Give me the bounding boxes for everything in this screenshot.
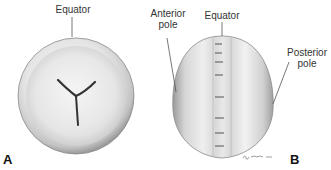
anterior-pole-label: Anterior pole <box>145 8 191 30</box>
lens-anterior-view <box>18 17 134 154</box>
equator-label-b: Equator <box>201 10 243 21</box>
lens-lateral-view <box>167 22 289 159</box>
posterior-pole-label: Posterior pole <box>284 47 330 69</box>
equator-label-a: Equator <box>52 4 94 15</box>
anterior-pole-leader-line <box>167 38 176 92</box>
panel-label-a: A <box>3 152 12 167</box>
artist-signature-icon <box>243 156 272 159</box>
panel-label-b: B <box>290 152 299 167</box>
